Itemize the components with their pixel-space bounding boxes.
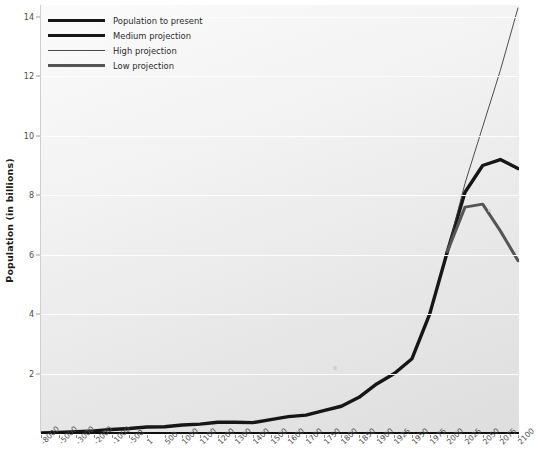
x-tick-label: 1850 xyxy=(357,426,377,446)
x-tick-label: 1600 xyxy=(286,426,306,446)
x-tick-label: 500 xyxy=(163,430,180,447)
x-tick-label: 2050 xyxy=(481,426,501,446)
legend-item-label: Population to present xyxy=(113,16,203,26)
x-tick-label: 1900 xyxy=(375,426,395,446)
x-tick-label: 1000 xyxy=(180,426,200,446)
legend-swatch-icon xyxy=(48,60,105,72)
x-tick-label: -3000 xyxy=(74,424,96,446)
x-tick-label: 1975 xyxy=(428,426,448,446)
legend-item[interactable]: High projection xyxy=(48,44,203,57)
x-tick-label: 1200 xyxy=(216,426,236,446)
x-tick-label: 1700 xyxy=(304,426,324,446)
x-tick-label: 2000 xyxy=(445,426,465,446)
legend-swatch-icon xyxy=(48,45,105,57)
x-tick-label: 2075 xyxy=(498,426,518,446)
legend-swatch-icon xyxy=(48,15,105,27)
x-tick-label: 1925 xyxy=(392,426,412,446)
legend-item[interactable]: Medium projection xyxy=(48,29,203,42)
x-tick-label: 1800 xyxy=(339,426,359,446)
legend-swatch-icon xyxy=(48,30,105,42)
legend-item-label: High projection xyxy=(113,46,177,56)
x-tick-label: 1300 xyxy=(233,426,253,446)
x-tick-label: 1400 xyxy=(251,426,271,446)
x-tick-label: 1 xyxy=(145,437,155,447)
x-tick-label: 1500 xyxy=(269,426,289,446)
legend-item-label: Medium projection xyxy=(113,31,191,41)
legend-item[interactable]: Low projection xyxy=(48,59,203,72)
legend-item-label: Low projection xyxy=(113,61,174,71)
x-tick-label: -1000 xyxy=(110,424,132,446)
legend-item[interactable]: Population to present xyxy=(48,14,203,27)
x-tick-label: 1100 xyxy=(198,426,218,446)
x-tick-label: -5000 xyxy=(57,424,79,446)
x-tick-label: 2025 xyxy=(463,426,483,446)
x-tick-label: 1750 xyxy=(322,426,342,446)
x-tick-label: 2100 xyxy=(516,426,536,446)
chart-legend: Population to presentMedium projectionHi… xyxy=(48,14,203,72)
x-tick-label: 1950 xyxy=(410,426,430,446)
